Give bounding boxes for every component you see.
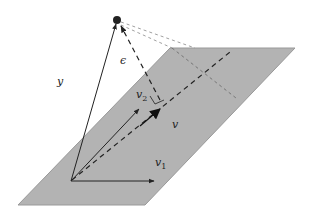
label-epsilon: ϵ — [120, 55, 126, 66]
subspace-plane — [18, 48, 295, 205]
point-y — [113, 16, 121, 24]
label-y: y — [57, 76, 63, 87]
label-v1: v1 — [155, 157, 166, 171]
label-v: v — [172, 119, 178, 130]
label-v2: v2 — [136, 89, 147, 103]
guide-line-lower — [121, 25, 172, 48]
guide-line-upper — [121, 22, 195, 48]
diagram-canvas — [0, 0, 312, 217]
